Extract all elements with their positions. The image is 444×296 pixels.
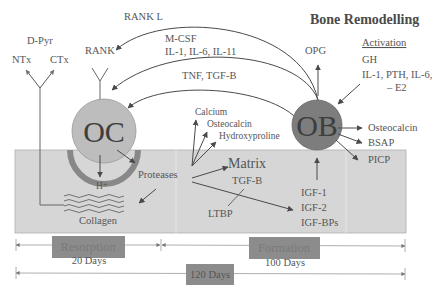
igf1-label: IGF-1 xyxy=(301,187,327,198)
activation-gh: GH xyxy=(362,54,378,65)
bone-remodelling-diagram: Bone Remodelling D-Pyr NTx CTx RANK RANK… xyxy=(0,0,444,296)
total-days-label: 120 Days xyxy=(190,269,230,280)
h-plus-label: H⁺ xyxy=(96,181,108,191)
ntx-label: NTx xyxy=(12,54,32,65)
ob-bsap-arrow xyxy=(338,134,362,143)
diagram-canvas: Bone Remodelling D-Pyr NTx CTx RANK RANK… xyxy=(0,0,444,296)
igfbps-label: IGF-BPs xyxy=(301,217,338,228)
resorption-days: 20 Days xyxy=(72,255,107,266)
rank-label: RANK xyxy=(85,45,115,56)
d-pyr-label: D-Pyr xyxy=(27,35,53,46)
osteoclast-label: OC xyxy=(83,115,125,148)
collagen-label: Collagen xyxy=(79,215,118,226)
hydroxyproline-label: Hydroxyproline xyxy=(219,131,280,141)
matrix-label: Matrix xyxy=(228,156,266,171)
activation-heading: Activation xyxy=(362,37,407,48)
igf2-label: IGF-2 xyxy=(301,202,327,213)
ltbp-label: LTBP xyxy=(208,208,233,219)
calcium-label: Calcium xyxy=(195,107,228,117)
mcsf-label: M-CSF xyxy=(165,33,197,44)
formation-label: Formation xyxy=(258,241,311,255)
osteoblast-cell: OB xyxy=(292,100,342,150)
picp-label: PICP xyxy=(368,154,390,165)
tgf-b-label: TGF-B xyxy=(232,175,262,186)
osteoblast-label: OB xyxy=(296,109,338,142)
bsap-label: BSAP xyxy=(368,137,394,148)
activation-hormones: IL-1, PTH, IL-6, xyxy=(362,69,432,80)
opg-label: OPG xyxy=(305,45,326,56)
activation-arrow xyxy=(338,84,360,104)
proteases-label: Proteases xyxy=(138,169,178,180)
ob-osteocalcin-label: Osteocalcin xyxy=(368,122,418,133)
ctx-label: CTx xyxy=(50,54,69,65)
resorption-label: Resorption xyxy=(61,240,117,254)
diagram-title: Bone Remodelling xyxy=(310,12,419,27)
rank-l-arrow xyxy=(116,27,318,100)
rank-l-label: RANK L xyxy=(124,11,163,22)
tnf-tgf-label: TNF, TGF-B xyxy=(182,70,236,81)
activation-e2: – E2 xyxy=(386,82,407,93)
formation-days: 100 Days xyxy=(265,257,305,268)
osteocalcin-release-label: Osteocalcin xyxy=(207,119,252,129)
interleukins-label: IL-1, IL-6, IL-11 xyxy=(165,46,236,57)
